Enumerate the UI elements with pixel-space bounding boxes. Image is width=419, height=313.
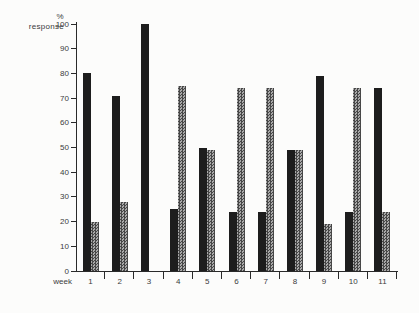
x-tick-label-7: 7 — [251, 272, 280, 288]
bar-hatched-gray-week-2 — [120, 202, 128, 271]
y-tick-label: 0 — [65, 267, 69, 276]
x-axis-label: week — [38, 277, 72, 286]
week-cell-3 — [134, 24, 163, 271]
bar-solid-black-week-11 — [374, 88, 382, 271]
y-tick-label: 90 — [60, 44, 69, 53]
week-cell-5 — [193, 24, 222, 271]
plot-area — [76, 24, 397, 271]
bar-hatched-gray-week-5 — [207, 150, 215, 271]
bar-solid-black-week-9 — [316, 76, 324, 271]
bar-solid-black-week-7 — [258, 212, 266, 271]
y-tick-20: 20 — [0, 217, 76, 226]
bar-hatched-gray-week-8 — [295, 150, 303, 271]
week-cell-10 — [339, 24, 368, 271]
x-tick-mark — [396, 272, 397, 279]
bar-solid-black-week-8 — [287, 150, 295, 271]
y-tick-50: 50 — [0, 143, 76, 152]
y-tick-70: 70 — [0, 94, 76, 103]
x-tick-label-2: 2 — [105, 272, 134, 288]
bar-chart-figure: % response 1009080706050403020100 123456… — [0, 0, 419, 313]
y-tick-label: 10 — [60, 242, 69, 251]
x-tick-label-4: 4 — [164, 272, 193, 288]
week-cell-7 — [251, 24, 280, 271]
y-tick-label: 70 — [60, 94, 69, 103]
week-cell-6 — [222, 24, 251, 271]
x-tick-label-11: 11 — [368, 272, 397, 288]
y-tick-40: 40 — [0, 168, 76, 177]
bar-hatched-gray-week-11 — [382, 212, 390, 271]
bar-solid-black-week-1 — [83, 73, 91, 271]
week-cell-11 — [368, 24, 397, 271]
y-tick-100: 100 — [0, 20, 76, 29]
x-tick-label-8: 8 — [280, 272, 309, 288]
bar-solid-black-week-3 — [141, 24, 149, 271]
x-tick-label-1: 1 — [76, 272, 105, 288]
y-tick-60: 60 — [0, 118, 76, 127]
week-cell-8 — [280, 24, 309, 271]
y-tick-10: 10 — [0, 242, 76, 251]
bar-solid-black-week-10 — [345, 212, 353, 271]
x-tick-label-10: 10 — [339, 272, 368, 288]
week-cell-2 — [105, 24, 134, 271]
bar-hatched-gray-week-1 — [91, 222, 99, 271]
week-cell-1 — [76, 24, 105, 271]
y-tick-30: 30 — [0, 192, 76, 201]
bar-solid-black-week-4 — [170, 209, 178, 271]
bar-hatched-gray-week-10 — [353, 88, 361, 271]
bar-hatched-gray-week-4 — [178, 86, 186, 271]
x-tick-label-5: 5 — [193, 272, 222, 288]
y-tick-80: 80 — [0, 69, 76, 78]
y-tick-label: 60 — [60, 118, 69, 127]
bar-hatched-gray-week-7 — [266, 88, 274, 271]
y-tick-label: 80 — [60, 69, 69, 78]
y-tick-0: 0 — [0, 267, 76, 276]
bar-solid-black-week-5 — [199, 148, 207, 272]
bar-hatched-gray-week-9 — [324, 224, 332, 271]
y-tick-label: 100 — [56, 20, 69, 29]
bar-solid-black-week-6 — [229, 212, 237, 271]
bar-solid-black-week-2 — [112, 96, 120, 271]
week-cell-4 — [164, 24, 193, 271]
bar-hatched-gray-week-6 — [237, 88, 245, 271]
y-tick-label: 40 — [60, 168, 69, 177]
week-cell-9 — [310, 24, 339, 271]
x-tick-label-3: 3 — [134, 272, 163, 288]
y-tick-90: 90 — [0, 44, 76, 53]
y-tick-label: 20 — [60, 217, 69, 226]
x-tick-label-6: 6 — [222, 272, 251, 288]
y-tick-label: 30 — [60, 192, 69, 201]
x-axis-tick-labels: 1234567891011 — [76, 272, 397, 288]
y-tick-label: 50 — [60, 143, 69, 152]
x-tick-label-9: 9 — [310, 272, 339, 288]
